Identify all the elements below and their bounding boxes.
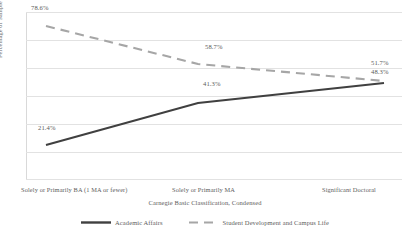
- legend-swatch-dashed-icon: [189, 219, 219, 226]
- data-label-academic-affairs-1: 41.3%: [203, 80, 221, 87]
- data-label-student-development-0: 78.6%: [31, 4, 49, 11]
- legend-label-student-development: Student Development and Campus Life: [223, 219, 329, 226]
- chart-legend: Academic Affairs Student Development and…: [0, 219, 410, 226]
- x-axis-label-0: Solely or Primarily BA (1 MA or fewer): [21, 186, 128, 193]
- legend-item-academic-affairs[interactable]: Academic Affairs: [81, 219, 163, 226]
- legend-item-student-development[interactable]: Student Development and Campus Life: [189, 219, 329, 226]
- x-axis-category-labels: Solely or Primarily BA (1 MA or fewer) S…: [0, 186, 410, 200]
- y-axis-title: Percentage of Sample: [0, 0, 3, 58]
- series-line-student-development: [46, 26, 384, 81]
- legend-label-academic-affairs: Academic Affairs: [115, 219, 163, 226]
- line-chart: Percentage of Sample 78.6% 58.7% 51.7% 4…: [0, 0, 410, 240]
- data-label-academic-affairs-0: 21.4%: [38, 124, 56, 131]
- series-lines: [26, 12, 402, 180]
- data-label-academic-affairs-2: 48.3%: [371, 68, 389, 75]
- legend-swatch-solid-icon: [81, 219, 111, 226]
- series-line-academic-affairs: [46, 83, 384, 145]
- x-axis-title: Carnegie Basic Classification, Condensed: [0, 199, 410, 206]
- x-axis-label-2: Significant Doctoral: [322, 186, 376, 193]
- data-label-student-development-2: 51.7%: [371, 59, 389, 66]
- plot-area: [26, 12, 402, 180]
- x-axis-label-1: Solely or Primarily MA: [172, 186, 235, 193]
- data-label-student-development-1: 58.7%: [205, 43, 223, 50]
